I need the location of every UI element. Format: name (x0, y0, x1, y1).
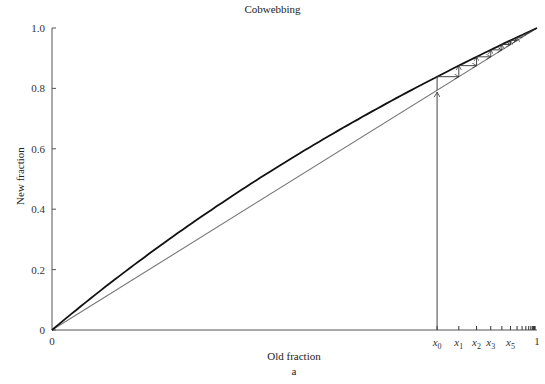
svg-text:x0: x0 (432, 336, 442, 351)
svg-text:x2: x2 (471, 336, 481, 351)
svg-text:x5: x5 (505, 336, 515, 351)
svg-text:0: 0 (49, 335, 55, 347)
cobweb-plot: 00.20.40.60.81.001x0x1x2x3x5 (0, 0, 545, 384)
svg-text:0.8: 0.8 (31, 82, 45, 94)
svg-text:0.2: 0.2 (31, 264, 45, 276)
cobweb-steps (437, 29, 535, 330)
svg-text:0.6: 0.6 (31, 143, 45, 155)
plot-series (52, 28, 537, 330)
svg-text:x1: x1 (453, 336, 463, 351)
svg-text:0.4: 0.4 (31, 203, 45, 215)
svg-text:x3: x3 (485, 336, 495, 351)
tick-labels: 00.20.40.60.81.001x0x1x2x3x5 (31, 22, 540, 351)
svg-text:1: 1 (534, 335, 540, 347)
svg-text:1.0: 1.0 (31, 22, 45, 34)
svg-text:0: 0 (40, 324, 46, 336)
